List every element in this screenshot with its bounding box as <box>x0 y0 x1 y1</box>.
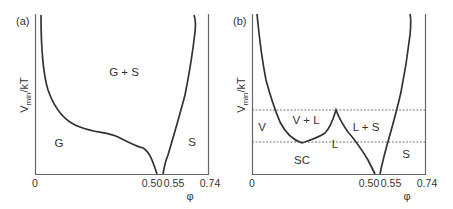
region-supercooled: SC <box>294 154 310 166</box>
svg-text:Vmin/kT: Vmin/kT <box>235 77 250 113</box>
y-axis-label-a: Vmin/kT <box>18 77 33 113</box>
region-vapor-liquid: V + L <box>292 114 320 126</box>
panel-b: (b) Vmin/kT V V + L L + S L SC S 0 0.50 … <box>233 14 437 202</box>
x-tick-055-b: 0.55 <box>381 177 402 189</box>
x-tick-050-a: 0.50 <box>142 177 163 189</box>
x-tick-074-a: 0.74 <box>200 177 221 189</box>
x-tick-055-a: 0.55 <box>164 177 185 189</box>
region-solid-b: S <box>402 148 410 160</box>
region-gas: G <box>55 137 64 149</box>
region-solid: S <box>188 136 196 148</box>
x-axis-label-b: φ <box>403 190 410 202</box>
x-tick-050-b: 0.50 <box>359 177 380 189</box>
region-vapor: V <box>258 121 266 133</box>
x-tick-074-b: 0.74 <box>417 177 438 189</box>
y-axis-label-b: Vmin/kT <box>235 77 250 113</box>
region-liquid-solid: L + S <box>353 121 380 133</box>
panel-label-a: (a) <box>16 15 29 27</box>
panel-label-b: (b) <box>233 15 246 27</box>
panel-a: (a) Vmin/kT G + S G S 0 0.50 0.55 0.74 φ <box>16 14 220 202</box>
gas-boundary-curve <box>41 15 157 174</box>
x-tick-0-a: 0 <box>32 177 38 189</box>
x-tick-0-b: 0 <box>249 177 255 189</box>
region-gas-solid: G + S <box>109 66 139 78</box>
solid-boundary-curve <box>163 15 195 174</box>
x-axis-label-a: φ <box>186 190 193 202</box>
figure: (a) Vmin/kT G + S G S 0 0.50 0.55 0.74 φ… <box>0 0 453 209</box>
region-liquid: L <box>332 138 339 150</box>
svg-text:Vmin/kT: Vmin/kT <box>18 77 33 113</box>
